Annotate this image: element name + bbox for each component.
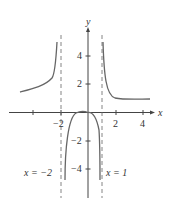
x-tick-label-4: 4: [140, 118, 145, 129]
x-tick-label-2: 2: [113, 118, 118, 129]
asymptote-right-label: x = 1: [105, 167, 127, 178]
x-axis-arrow-icon: [150, 111, 155, 115]
x-axis-label: x: [157, 107, 163, 118]
y-axis-label: y: [85, 16, 91, 27]
right-branch: [103, 42, 150, 99]
y-tick-label-4: 4: [77, 50, 82, 61]
left-branch: [20, 42, 57, 92]
x-tick-label-neg2: −2: [53, 118, 64, 129]
y-axis-arrow-icon: [86, 27, 90, 32]
asymptote-left-label: x = −2: [23, 167, 52, 178]
rational-function-graph: y x −2 2 4 4 2 −2 −4 x = −2 x = 1: [0, 0, 174, 198]
y-tick-label-neg4: −4: [71, 163, 82, 174]
y-tick-label-2: 2: [77, 78, 82, 89]
y-tick-label-neg2: −2: [71, 135, 82, 146]
